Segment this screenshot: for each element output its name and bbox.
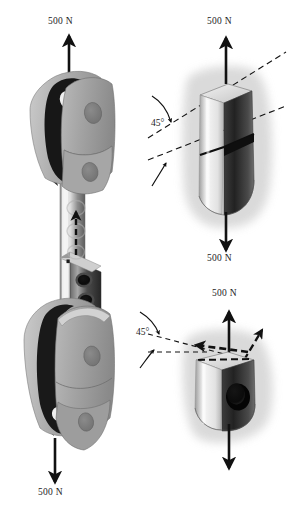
angle-label-upper: 45° [151, 118, 164, 128]
rod-section-block [199, 84, 254, 215]
angle-label-lower: 45° [136, 327, 149, 337]
force-label-bottom-right: 500 N [207, 253, 232, 263]
force-label-lower-detail-top: 500 N [212, 288, 237, 298]
force-label-top-left: 500 N [48, 16, 73, 26]
force-label-bottom-left: 500 N [38, 487, 63, 497]
force-label-top-right: 500 N [207, 16, 232, 26]
engineering-figure [0, 0, 292, 513]
pin-hole-block [195, 352, 255, 431]
